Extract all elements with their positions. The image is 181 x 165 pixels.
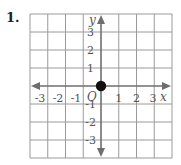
x-axis-left-arrow-icon bbox=[31, 82, 40, 90]
y-tick-label: 3 bbox=[87, 26, 94, 39]
y-tick-label: -1 bbox=[85, 98, 96, 111]
x-tick-label: -2 bbox=[53, 92, 64, 105]
y-axis-down-arrow-icon bbox=[97, 148, 105, 157]
x-tick-label: 1 bbox=[115, 92, 122, 105]
y-tick-label: 2 bbox=[87, 44, 94, 57]
x-tick-label: -3 bbox=[35, 92, 46, 105]
y-tick-label: 1 bbox=[87, 62, 94, 75]
y-axis-up-arrow-icon bbox=[97, 15, 105, 24]
x-tick-label: -1 bbox=[71, 92, 82, 105]
x-tick-label: 3 bbox=[150, 92, 157, 105]
y-tick-label: -2 bbox=[85, 116, 96, 129]
y-tick-label: -3 bbox=[85, 134, 96, 147]
x-tick-label: 2 bbox=[133, 92, 140, 105]
y-axis-label: y bbox=[88, 13, 96, 27]
plotted-point bbox=[96, 81, 106, 91]
x-axis-label: x bbox=[160, 90, 167, 104]
coordinate-plane: y x -3 -2 -1 1 2 3 O 3 2 1 -1 -2 -3 bbox=[0, 0, 181, 165]
x-axis-right-arrow-icon bbox=[162, 82, 171, 90]
